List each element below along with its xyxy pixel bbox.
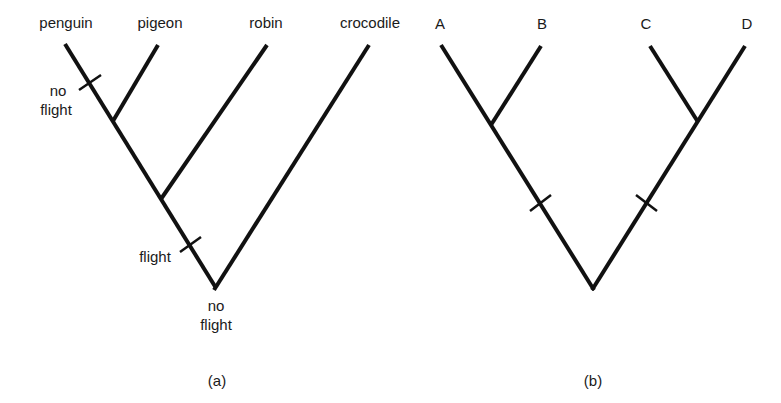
- label-no-flight-1: no: [50, 82, 67, 99]
- panel-a: penguin pigeon robin crocodile no flight…: [39, 14, 400, 389]
- label-flight: flight: [139, 248, 172, 265]
- branch-d-to-root: [592, 46, 745, 290]
- taxon-penguin: penguin: [39, 14, 92, 31]
- branch-crocodile: [214, 45, 369, 290]
- label-no-flight-2: flight: [40, 101, 73, 118]
- taxon-pigeon: pigeon: [137, 14, 182, 31]
- tick-right-lineage: [636, 195, 657, 211]
- branch-b: [491, 46, 541, 125]
- taxon-d: D: [742, 15, 753, 32]
- caption-a: (a): [208, 372, 226, 389]
- branch-robin: [161, 45, 267, 199]
- taxon-a: A: [435, 15, 445, 32]
- caption-b: (b): [584, 372, 602, 389]
- label-root-flight: flight: [200, 316, 233, 333]
- taxon-b: B: [537, 15, 547, 32]
- branch-c: [650, 46, 698, 122]
- taxon-c: C: [641, 15, 652, 32]
- taxon-crocodile: crocodile: [340, 14, 400, 31]
- taxon-robin: robin: [249, 14, 282, 31]
- label-root-no: no: [208, 297, 225, 314]
- panel-b: A B C D (b): [435, 15, 753, 389]
- branch-pigeon: [113, 45, 158, 121]
- cladogram-figure: penguin pigeon robin crocodile no flight…: [0, 0, 781, 403]
- tick-left-lineage: [530, 195, 551, 211]
